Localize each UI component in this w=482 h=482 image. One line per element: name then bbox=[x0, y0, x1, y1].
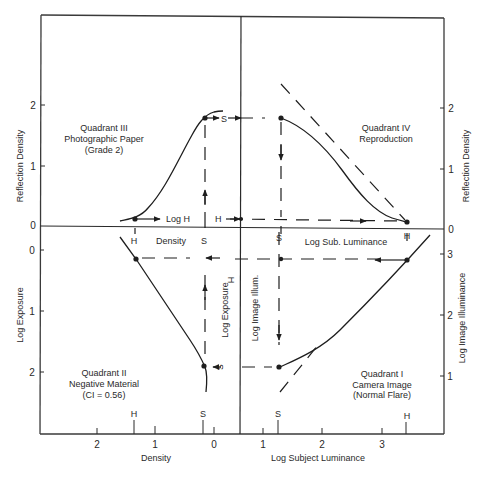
tick-label: 2 bbox=[448, 103, 454, 114]
q1-highlight-point bbox=[404, 257, 409, 262]
tick-label: 3 bbox=[447, 249, 453, 260]
tick-label: 1 bbox=[447, 371, 453, 382]
bottom-sh-markers: H S S H bbox=[131, 409, 411, 421]
quadrant-subtitle: Camera Image bbox=[352, 380, 412, 390]
left-axis-tick-labels: 2 1 0 0 1 2 bbox=[29, 100, 36, 378]
s-marker: S bbox=[200, 409, 206, 419]
q3-highlight-point bbox=[132, 216, 137, 221]
q4-ideal-line bbox=[281, 84, 405, 220]
tick-label: 0 bbox=[448, 224, 454, 235]
s-marker: S bbox=[221, 114, 227, 124]
inner-log-h-label: Log H bbox=[166, 214, 190, 224]
paper-curve bbox=[120, 111, 223, 221]
bottom-left-axis-label: Density bbox=[141, 453, 172, 463]
tick-label: 2 bbox=[319, 439, 325, 450]
quadrant-iv-label: Quadrant IV Reproduction bbox=[359, 123, 413, 144]
quadrant-title: Quadrant III bbox=[80, 123, 128, 133]
tick-label: 1 bbox=[448, 164, 454, 175]
q2-highlight-point bbox=[133, 256, 138, 261]
bottom-axis-ticks bbox=[97, 420, 406, 434]
tick-label: 0 bbox=[30, 220, 36, 231]
tick-label: 0 bbox=[211, 439, 217, 450]
negative-curve bbox=[120, 237, 207, 392]
right-lower-axis-label: Log Image Illuminance bbox=[457, 273, 467, 364]
h-marker: H bbox=[226, 277, 236, 284]
quadrant-subtitle: Negative Material bbox=[69, 379, 139, 389]
q4-shadow-point bbox=[278, 115, 283, 120]
quadrant-title: Quadrant IV bbox=[362, 123, 411, 133]
left-upper-axis-label: Reflection Density bbox=[15, 129, 25, 202]
camera-image-curve bbox=[280, 235, 430, 367]
bottom-right-axis-label: Log Subject Luminance bbox=[271, 453, 365, 463]
quadrant-ii-label: Quadrant II Negative Material (CI = 0.56… bbox=[69, 368, 139, 400]
quadrant-subtitle: Reproduction bbox=[359, 134, 413, 144]
vertical-center-axis bbox=[240, 16, 241, 434]
s-marker: S bbox=[275, 409, 281, 419]
inner-log-sub-luminance-label: Log Sub. Luminance bbox=[305, 237, 388, 247]
h-marker: H bbox=[131, 409, 138, 419]
q1-linear-extension bbox=[280, 345, 318, 392]
tick-label: 2 bbox=[29, 367, 35, 378]
tick-label: 3 bbox=[379, 439, 385, 450]
characteristic-curves bbox=[120, 111, 430, 392]
q1-s-intersection-point bbox=[279, 257, 283, 261]
q4-highlight-point bbox=[404, 219, 409, 224]
tick-label: 2 bbox=[30, 100, 36, 111]
center-arrow-point bbox=[239, 217, 243, 221]
quadrant-note: (CI = 0.56) bbox=[83, 390, 126, 400]
quadrant-subtitle: Photographic Paper bbox=[64, 134, 144, 144]
quadrant-note: (Normal Flare) bbox=[353, 390, 411, 400]
tone-reproduction-diagram: 2 1 0 0 1 2 Reflection Density Log Expos… bbox=[0, 0, 482, 482]
q1-shadow-point bbox=[276, 364, 281, 369]
tick-label: 1 bbox=[152, 439, 158, 450]
quadrant-title: Quadrant I bbox=[361, 369, 404, 379]
bottom-axis-tick-labels: 2 1 0 1 2 3 bbox=[94, 439, 385, 450]
tick-label: 0 bbox=[29, 245, 35, 256]
left-lower-axis-label: Log Exposure bbox=[15, 287, 25, 343]
inner-log-image-illum-label: Log Image Illum. bbox=[250, 275, 260, 342]
tick-label: 1 bbox=[29, 306, 35, 317]
h-marker: H bbox=[404, 411, 411, 421]
tick-label: 1 bbox=[260, 439, 266, 450]
right-axis-tick-labels: 2 1 0 3 2 1 bbox=[447, 103, 454, 382]
q3-shadow-point bbox=[202, 115, 207, 120]
right-upper-axis-label: Reflection Density bbox=[461, 129, 471, 202]
h-marker: H bbox=[131, 236, 138, 246]
quadrant-title: Quadrant II bbox=[81, 368, 126, 378]
quadrant-i-label: Quadrant I Camera Image (Normal Flare) bbox=[352, 369, 412, 400]
inner-log-exposure-label: Log Exposure bbox=[220, 282, 230, 338]
q2-shadow-point bbox=[201, 363, 206, 368]
tick-label: 2 bbox=[94, 439, 100, 450]
s-marker: S bbox=[201, 236, 207, 246]
h-marker: H bbox=[215, 214, 222, 224]
inner-density-label: Density bbox=[156, 236, 187, 246]
quadrant-iii-label: Quadrant III Photographic Paper (Grade 2… bbox=[64, 123, 144, 155]
horizontal-center-axis bbox=[40, 226, 444, 229]
quadrant-note: (Grade 2) bbox=[85, 145, 124, 155]
tick-label: 2 bbox=[447, 310, 453, 321]
tick-label: 1 bbox=[30, 161, 36, 172]
